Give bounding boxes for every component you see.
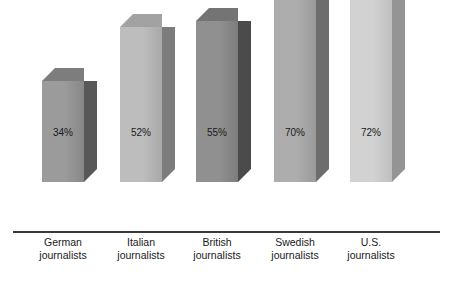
- plot-area: 34% 52% 55% 70% 72%: [0, 0, 451, 233]
- category-label-us-line2: journalists: [332, 249, 410, 262]
- bar-side-face-us: [392, 0, 405, 182]
- category-label-swedish: Swedish journalists: [256, 236, 334, 262]
- bar-top-face-german: [42, 68, 84, 81]
- bar-side-face-swedish: [316, 0, 329, 182]
- bar-value-us: 72%: [350, 127, 392, 138]
- bar-us[interactable]: 72%: [350, 0, 392, 182]
- bar-side-face-german: [84, 81, 97, 182]
- bar-front-face-italian: [120, 27, 162, 182]
- category-label-us-line1: U.S.: [332, 236, 410, 249]
- bar-german[interactable]: 34%: [42, 81, 84, 182]
- category-label-british-line1: British: [178, 236, 256, 249]
- category-label-british: British journalists: [178, 236, 256, 262]
- bar-value-british: 55%: [196, 127, 238, 138]
- category-label-italian-line1: Italian: [102, 236, 180, 249]
- bar-side-face-british: [238, 21, 251, 182]
- category-label-german-line1: German: [24, 236, 102, 249]
- bar-chart: 34% 52% 55% 70% 72%: [0, 0, 451, 282]
- category-label-swedish-line2: journalists: [256, 249, 334, 262]
- bar-british[interactable]: 55%: [196, 21, 238, 182]
- bar-italian[interactable]: 52%: [120, 27, 162, 182]
- category-label-italian: Italian journalists: [102, 236, 180, 262]
- category-label-british-line2: journalists: [178, 249, 256, 262]
- bar-value-swedish: 70%: [274, 127, 316, 138]
- category-label-german-line2: journalists: [24, 249, 102, 262]
- bar-front-face-british: [196, 21, 238, 182]
- bar-side-face-italian: [162, 27, 175, 182]
- bar-top-face-british: [196, 8, 238, 21]
- bar-value-german: 34%: [42, 127, 84, 138]
- bar-value-italian: 52%: [120, 127, 162, 138]
- category-label-italian-line2: journalists: [102, 249, 180, 262]
- category-label-german: German journalists: [24, 236, 102, 262]
- bar-swedish[interactable]: 70%: [274, 0, 316, 182]
- bar-front-face-swedish: [274, 0, 316, 182]
- category-label-swedish-line1: Swedish: [256, 236, 334, 249]
- bar-front-face-us: [350, 0, 392, 182]
- axis-baseline: [13, 231, 440, 233]
- bar-top-face-italian: [120, 14, 162, 27]
- category-label-us: U.S. journalists: [332, 236, 410, 262]
